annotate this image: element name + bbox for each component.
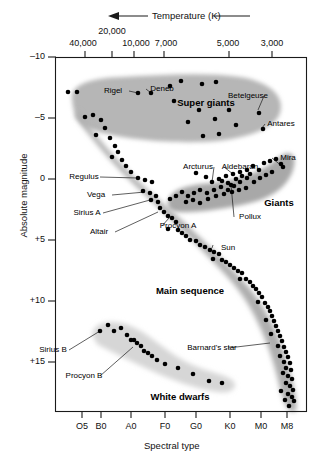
spectral-tick-label-4: G0: [190, 421, 202, 431]
magnitude-tick-label-4: +10: [30, 295, 45, 305]
region-label-giants: Giants: [264, 197, 294, 208]
star-label-barnard-s-star: Barnard's star: [187, 343, 237, 352]
magnitude-tick-label-2: 0: [40, 173, 45, 183]
star-label-arcturus: Arcturus: [183, 162, 213, 171]
star-label-vega: Vega: [87, 190, 105, 199]
magnitude-tick-label-0: –10: [30, 51, 45, 61]
spectral-type-axis-title: Spectral type: [144, 440, 199, 451]
hr-diagram-figure: Temperature (K) Spectral type Absolute m…: [0, 0, 321, 464]
temperature-tick-label-4: 5,000: [217, 38, 240, 48]
star-label-pollux: Pollux: [239, 212, 261, 221]
region-label-super-giants: Super giants: [177, 97, 235, 108]
spectral-tick-label-5: K0: [224, 421, 235, 431]
spectral-tick-label-7: M8: [281, 421, 294, 431]
star-label-betelgeuse: Betelgeuse: [228, 91, 268, 100]
star-label-altair: Altair: [90, 227, 108, 236]
star-label-regulus: Regulus: [69, 172, 98, 181]
left-axis-ticks: [48, 57, 56, 362]
star-label-deneb: Deneb: [150, 84, 174, 93]
temperature-tick-label-0: 40,000: [69, 38, 97, 48]
temperature-tick-label-2: 10,000: [122, 38, 150, 48]
star-label-sirius-a: Sirius A: [73, 208, 100, 217]
spectral-tick-label-0: O5: [76, 421, 88, 431]
temperature-tick-label-5: 3,000: [261, 38, 284, 48]
absolute-magnitude-axis-title: Absolute magnitude: [18, 136, 29, 256]
temperature-axis-title: Temperature (K): [152, 10, 221, 21]
spectral-tick-label-1: B0: [95, 421, 106, 431]
temperature-tick-label-1: 20,000: [98, 26, 126, 36]
star-label-sirius-b: Sirius B: [39, 345, 67, 354]
star-label-procyon-b: Procyon B: [66, 371, 103, 380]
spectral-tick-label-3: F0: [160, 421, 171, 431]
star-label-sun: Sun: [221, 243, 235, 252]
magnitude-tick-label-3: +5: [35, 234, 45, 244]
region-super-giants: [72, 74, 281, 142]
region-label-white-dwarfs: White dwarfs: [150, 391, 209, 402]
region-label-main-sequence: Main sequence: [156, 285, 224, 296]
figure-stage: Temperature (K) Spectral type Absolute m…: [0, 0, 321, 464]
temperature-tick-label-3: 7,000: [155, 38, 178, 48]
spectral-tick-label-6: M0: [255, 421, 268, 431]
star-label-mira: Mira: [280, 153, 296, 162]
star-label-procyon-a: Procyon A: [160, 221, 196, 230]
star-label-aldebaran: Aldebaran: [222, 162, 258, 171]
magnitude-tick-label-5: +15: [30, 356, 45, 366]
star-label-rigel: Rigel: [104, 86, 122, 95]
spectral-tick-label-2: A0: [125, 421, 136, 431]
star-label-antares: Antares: [267, 119, 295, 128]
magnitude-tick-label-1: –5: [35, 112, 45, 122]
